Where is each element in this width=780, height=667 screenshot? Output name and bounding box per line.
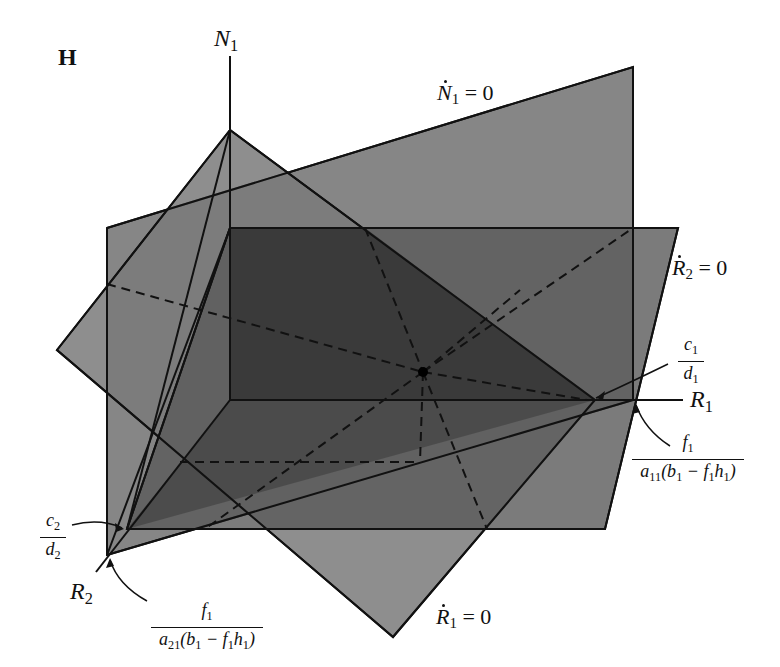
r2-int-num: f1 bbox=[151, 600, 263, 626]
fraction-bar bbox=[151, 627, 263, 628]
r1-nullcline-label: R1 = 0 bbox=[436, 604, 491, 632]
d1-den-sub: 1 bbox=[692, 371, 698, 385]
den-h: h bbox=[715, 461, 724, 481]
r1-axis-var: R bbox=[690, 386, 705, 412]
den-f: − f bbox=[682, 461, 708, 481]
r1-intercept-label: f1 a11(b1 − f1h1) bbox=[632, 432, 744, 486]
d2-den-sub: 2 bbox=[54, 547, 60, 561]
r2-null-sub: 2 bbox=[685, 266, 692, 282]
r1-null-rhs: = 0 bbox=[457, 604, 491, 629]
den-a: a bbox=[640, 461, 649, 481]
fraction-bar bbox=[632, 459, 744, 460]
n1-nullcline-label: N1 = 0 bbox=[437, 80, 494, 108]
n1-axis-sub: 1 bbox=[230, 36, 238, 55]
c1-num: c1 bbox=[678, 334, 704, 360]
r2-axis-sub: 2 bbox=[85, 589, 93, 608]
den-a-sub: 11 bbox=[649, 469, 661, 483]
n1-null-var: N bbox=[437, 80, 452, 106]
equilibrium-point bbox=[418, 367, 428, 377]
c2-over-d2-label: c2 d2 bbox=[40, 510, 66, 564]
den-h: h bbox=[234, 629, 243, 649]
r2-int-num-sub: 1 bbox=[206, 609, 212, 623]
r2-null-var: R bbox=[672, 255, 685, 281]
r2-axis-label: R2 bbox=[70, 578, 93, 609]
den-a-sub: 21 bbox=[168, 637, 180, 651]
den-close: ) bbox=[730, 461, 736, 481]
c2-num-sub: 2 bbox=[54, 519, 60, 533]
c2-num: c2 bbox=[40, 510, 66, 536]
r1-int-num-sub: 1 bbox=[687, 441, 693, 455]
r1-null-sub: 1 bbox=[449, 615, 456, 631]
r1-axis-label: R1 bbox=[690, 386, 713, 417]
d1-den: d1 bbox=[678, 363, 704, 389]
r1-null-var: R bbox=[436, 604, 449, 630]
c2-num-var: c bbox=[46, 510, 54, 530]
den-b: (b bbox=[661, 461, 676, 481]
den-b: (b bbox=[180, 629, 195, 649]
den-f: − f bbox=[201, 629, 227, 649]
n1-null-rhs: = 0 bbox=[459, 80, 493, 105]
n1-axis-label: N1 bbox=[214, 25, 238, 56]
fraction-bar bbox=[40, 537, 66, 538]
r1-axis-sub: 1 bbox=[705, 397, 713, 416]
den-a: a bbox=[159, 629, 168, 649]
diagram-canvas: H N1 R1 R2 N1 = 0 R2 = 0 R1 = 0 c1 d1 c2… bbox=[0, 0, 780, 667]
r2-int-den: a21(b1 − f1h1) bbox=[151, 629, 263, 655]
panel-letter: H bbox=[58, 44, 77, 71]
c1-num-sub: 1 bbox=[692, 343, 698, 357]
c1-over-d1-label: c1 d1 bbox=[678, 334, 704, 388]
r1-int-num: f1 bbox=[632, 432, 744, 458]
r1-int-den: a11(b1 − f1h1) bbox=[632, 461, 744, 487]
c1-num-var: c bbox=[684, 334, 692, 354]
d2-den: d2 bbox=[40, 539, 66, 565]
r2-nullcline-label: R2 = 0 bbox=[672, 255, 727, 283]
r2-intercept-label: f1 a21(b1 − f1h1) bbox=[151, 600, 263, 654]
den-close: ) bbox=[249, 629, 255, 649]
r2-axis-var: R bbox=[70, 578, 85, 604]
r2-null-rhs: = 0 bbox=[693, 255, 727, 280]
phase-space-diagram bbox=[0, 0, 780, 667]
fraction-bar bbox=[678, 361, 704, 362]
n1-axis-var: N bbox=[214, 25, 230, 51]
